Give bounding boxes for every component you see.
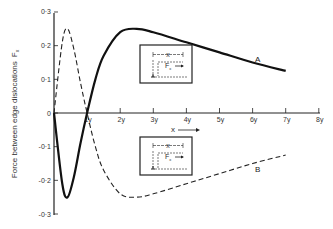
- inset-diagram-a: x Fx: [140, 45, 192, 83]
- y-tick-label: -0·2: [39, 177, 52, 184]
- x-tick-label: 8y: [316, 116, 324, 124]
- x-tick-label: 5y: [217, 116, 225, 124]
- y-axis-label: Force between edge dislocationsFx: [10, 49, 20, 178]
- svg-text:Force between edge dislocation: Force between edge dislocationsFx: [10, 49, 20, 178]
- y-tick-label: 0: [47, 110, 51, 117]
- y-tick-label: 0·3: [41, 8, 51, 15]
- x-tick-label: 4y: [184, 116, 192, 124]
- x-tick-label: 7y: [283, 116, 291, 124]
- y-tick-label: 0·2: [41, 42, 51, 49]
- x-tick-label: 2y: [117, 116, 125, 124]
- svg-text:x: x: [166, 142, 170, 149]
- y-tick-label: -0·1: [39, 143, 52, 150]
- curve-b-label: B: [255, 165, 260, 174]
- inset-diagram-b: x Fx: [140, 137, 192, 175]
- y-tick-label: -0·3: [39, 211, 52, 218]
- x-ticks: 1y2y3y4y5y6y7y8y: [84, 108, 324, 124]
- y-tick-label: 0·1: [41, 76, 51, 83]
- chart: 0·30·20·10-0·1-0·2-0·3 1y2y3y4y5y6y7y8y …: [0, 0, 333, 229]
- x-axis-label: x: [171, 125, 175, 134]
- x-tick-label: 3y: [151, 116, 159, 124]
- x-arrowhead-icon: [196, 128, 200, 132]
- svg-text:x: x: [166, 51, 170, 58]
- x-tick-label: 6y: [250, 116, 258, 124]
- curve-a-label: A: [255, 55, 261, 64]
